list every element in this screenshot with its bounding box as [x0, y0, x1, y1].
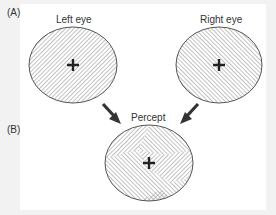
right-eye-stimulus — [176, 27, 262, 103]
arrow-left-to-percept-icon — [103, 104, 121, 124]
binocular-rivalry-diagram — [0, 0, 276, 215]
left-eye-stimulus — [29, 27, 117, 103]
percept-label: Percept — [131, 112, 165, 123]
panel-label-a: (A) — [7, 7, 20, 18]
left-eye-label: Left eye — [56, 14, 92, 25]
right-eye-label: Right eye — [200, 14, 242, 25]
percept-stimulus — [105, 125, 193, 201]
arrow-right-to-percept-icon — [180, 104, 198, 124]
panel-label-b: (B) — [7, 124, 20, 135]
